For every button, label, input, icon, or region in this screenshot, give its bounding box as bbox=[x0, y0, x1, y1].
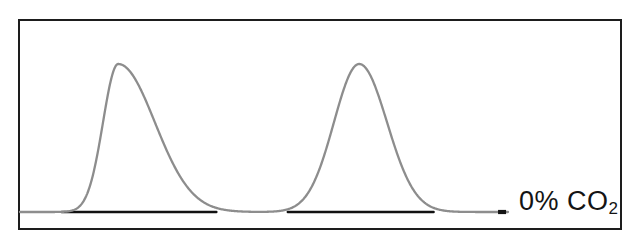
series-label-base: 0% CO bbox=[519, 186, 609, 216]
series-label-subscript: 2 bbox=[609, 199, 618, 218]
chromatogram-trace bbox=[20, 64, 508, 212]
chromatogram-figure: 0% CO2 bbox=[0, 0, 640, 240]
series-label: 0% CO2 bbox=[519, 188, 618, 215]
